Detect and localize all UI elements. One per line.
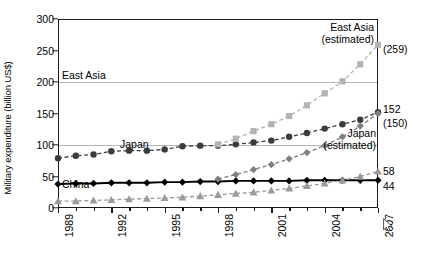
series-china — [54, 168, 382, 205]
data-point — [232, 177, 239, 184]
x-tick-mark-1992 — [111, 208, 112, 213]
data-point — [285, 155, 292, 162]
annotation-japan-estimated: Japan (estimated) — [298, 127, 376, 151]
data-point — [73, 153, 79, 159]
data-point — [357, 117, 363, 123]
data-point — [268, 177, 275, 184]
data-point — [250, 128, 256, 134]
x-tick-mark-2001 — [271, 208, 272, 213]
data-point — [285, 177, 292, 184]
x-tick-mark-2000 — [254, 208, 255, 211]
data-point — [90, 151, 96, 157]
x-tick-mark-1994 — [147, 208, 148, 211]
x-tick-mark-1989 — [58, 208, 59, 213]
annotation-japan-estimated-line2: (estimated) — [298, 139, 376, 151]
annotation-east-asia-estimated: East Asia (estimated) — [288, 21, 374, 45]
x-tick-label-2001: 2001 — [276, 214, 288, 237]
data-point — [54, 180, 61, 187]
data-point — [197, 178, 204, 185]
data-point — [250, 166, 257, 173]
data-point — [268, 121, 274, 127]
data-point — [143, 179, 150, 186]
y-tick-label-50: 50 — [14, 171, 54, 183]
x-tick-mark-1993 — [129, 208, 130, 211]
data-point — [215, 141, 221, 147]
data-point — [55, 155, 61, 161]
x-tick-label-1998: 1998 — [223, 214, 235, 237]
y-tick-label-0: 0 — [14, 202, 54, 214]
annotation-east-asia: East Asia — [62, 69, 106, 81]
x-tick-mark-2005 — [342, 208, 343, 211]
right-label-china: 58 — [383, 165, 395, 177]
y-axis-title: Military expenditure (billion US$) — [0, 0, 15, 256]
right-label-east-asia: 152 — [383, 103, 401, 115]
x-tick-label-1989: 1989 — [63, 214, 75, 237]
right-label-japan-estimated: (150) — [383, 117, 408, 129]
y-tick-label-150: 150 — [14, 108, 54, 120]
x-tick-label-2004: 2004 — [330, 214, 342, 237]
data-point — [197, 142, 203, 148]
data-point — [268, 137, 274, 143]
x-tick-label-1995: 1995 — [170, 214, 182, 237]
data-point — [161, 146, 167, 152]
y-tick-label-250: 250 — [14, 45, 54, 57]
data-point — [268, 161, 275, 168]
x-tick-mark-2006 — [360, 208, 361, 211]
data-point — [357, 61, 363, 67]
annotation-china: China — [62, 178, 89, 190]
x-tick-mark-2003 — [307, 208, 308, 211]
data-point — [214, 191, 222, 198]
data-point — [374, 177, 381, 184]
x-tick-mark-1996 — [182, 208, 183, 211]
data-point — [250, 139, 256, 145]
annotation-east-asia-estimated-line2: (estimated) — [288, 33, 374, 45]
chart-figure: Military expenditure (billion US$) 0 50 … — [0, 0, 436, 256]
data-point — [267, 186, 275, 193]
x-tick-mark-1995 — [165, 208, 166, 213]
x-tick-mark-2002 — [289, 208, 290, 211]
data-point — [250, 177, 257, 184]
data-point — [90, 180, 97, 187]
right-label-east-asia-estimated: (259) — [383, 43, 408, 55]
data-point — [375, 42, 381, 48]
y-tick-label-200: 200 — [14, 76, 54, 88]
right-label-japan: 44 — [383, 180, 395, 192]
data-point — [339, 78, 345, 84]
y-tick-label-100: 100 — [14, 139, 54, 151]
x-tick-label-1992: 1992 — [116, 214, 128, 237]
data-point — [161, 179, 168, 186]
annotation-japan: Japan — [120, 138, 149, 150]
x-tick-mark-1999 — [236, 208, 237, 211]
x-tick-mark-1997 — [200, 208, 201, 211]
x-tick-mark-1998 — [218, 208, 219, 213]
data-point — [125, 179, 132, 186]
annotation-east-asia-estimated-line1: East Asia — [288, 21, 374, 33]
data-point — [90, 197, 98, 204]
series-layer — [58, 19, 378, 208]
data-point — [322, 90, 328, 96]
data-point — [374, 168, 382, 175]
plot-area: East Asia Japan China East Asia (estimat… — [58, 19, 378, 208]
x-tick-mark-2004 — [325, 208, 326, 213]
data-point — [304, 102, 310, 108]
y-tick-label-300: 300 — [14, 13, 54, 25]
data-point — [108, 148, 114, 154]
x-tick-mark-1991 — [94, 208, 95, 211]
data-point — [179, 143, 185, 149]
data-point — [286, 134, 292, 140]
data-point — [233, 136, 239, 142]
data-point — [179, 179, 186, 186]
annotation-japan-estimated-line1: Japan — [298, 127, 376, 139]
data-point — [233, 141, 239, 147]
data-point — [286, 113, 292, 119]
data-point — [232, 171, 239, 178]
x-tick-mark-1990 — [76, 208, 77, 211]
x-tick-mark-2007 — [378, 208, 379, 213]
data-point — [108, 179, 115, 186]
mouse-cursor-icon — [383, 218, 393, 232]
